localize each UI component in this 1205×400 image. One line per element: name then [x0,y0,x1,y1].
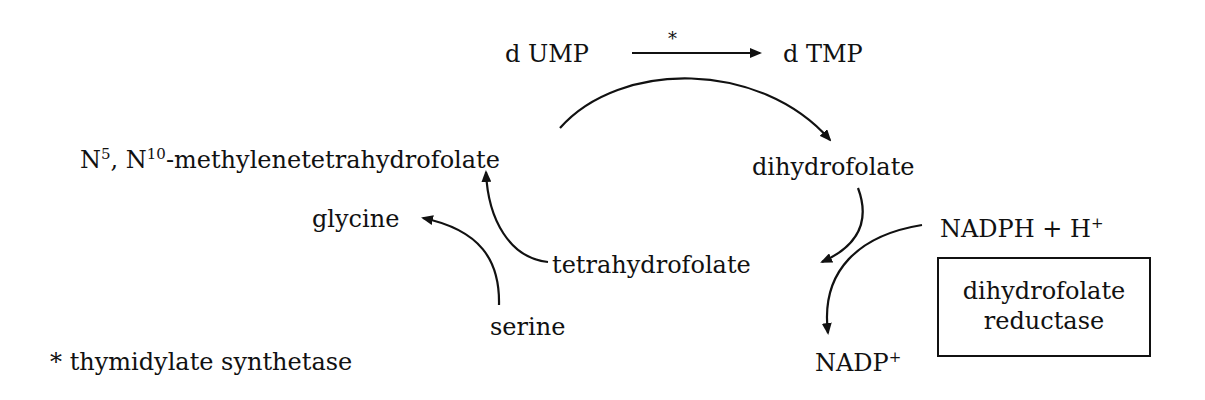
nadp-label: NADP+ [815,350,901,375]
diagram-canvas: * d UMP d TMP N5, N10-methylenetetrahydr… [0,0,1205,400]
enzyme-box-line1: dihydrofolate [939,276,1149,306]
methylene-thf-label: N5, N10-methylenetetrahydrofolate [80,147,500,172]
enzyme-marker: * [668,30,677,48]
enzyme-box-text: dihydrofolate reductase [939,276,1149,336]
footnote: * thymidylate synthetase [50,350,352,374]
glycine-label: glycine [312,207,399,231]
thf-to-methylene-arrow [486,172,548,262]
enzyme-box-line2: reductase [939,306,1149,336]
nadph-to-nadp-arrow [827,225,922,333]
serine-to-glycine-arrow [423,218,499,305]
dihydrofolate-label: dihydrofolate [752,155,915,179]
dihydrofolate-reductase-box: dihydrofolate reductase [937,257,1151,357]
serine-label: serine [490,315,565,339]
dtmp-label: d TMP [783,42,863,66]
tetrahydrofolate-label: tetrahydrofolate [552,253,751,277]
methylene-to-dhf-arrow [560,78,830,140]
dump-label: d UMP [505,42,589,66]
nadph-label: NADPH + H+ [940,216,1104,241]
